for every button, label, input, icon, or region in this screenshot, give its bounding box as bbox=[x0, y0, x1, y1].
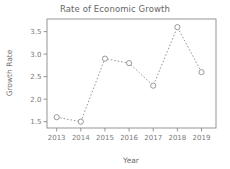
chart-container: Rate of Economic Growth 1.52.02.53.03.5 … bbox=[0, 0, 230, 169]
x-tick-label: 2017 bbox=[144, 134, 162, 142]
y-tick-label: 2.0 bbox=[30, 96, 41, 104]
series-line-path bbox=[57, 27, 202, 122]
x-tick-label: 2013 bbox=[48, 134, 66, 142]
x-tick-label: 2014 bbox=[72, 134, 90, 142]
data-point-marker bbox=[126, 61, 131, 66]
data-point-marker bbox=[199, 70, 204, 75]
data-point-marker bbox=[151, 83, 156, 88]
x-axis-title: Year bbox=[122, 156, 140, 165]
data-point-marker bbox=[102, 56, 107, 61]
y-tick-label: 1.5 bbox=[30, 118, 41, 126]
x-axis-ticks: 2013201420152016201720182019 bbox=[48, 128, 211, 142]
plot-frame bbox=[47, 19, 216, 128]
x-tick-label: 2015 bbox=[96, 134, 114, 142]
y-tick-label: 3.5 bbox=[30, 28, 41, 36]
y-axis-ticks: 1.52.02.53.03.5 bbox=[30, 28, 47, 126]
x-tick-label: 2018 bbox=[168, 134, 186, 142]
y-tick-label: 2.5 bbox=[30, 73, 41, 81]
x-tick-label: 2019 bbox=[193, 134, 211, 142]
data-series-growth-rate bbox=[54, 25, 204, 125]
line-chart-plot: 1.52.02.53.03.5 201320142015201620172018… bbox=[0, 0, 230, 169]
y-axis-title: Growth Rate bbox=[5, 49, 14, 96]
series-markers bbox=[54, 25, 204, 125]
data-point-marker bbox=[175, 25, 180, 30]
data-point-marker bbox=[78, 119, 83, 124]
y-tick-label: 3.0 bbox=[30, 51, 41, 59]
x-tick-label: 2016 bbox=[120, 134, 138, 142]
data-point-marker bbox=[54, 115, 59, 120]
